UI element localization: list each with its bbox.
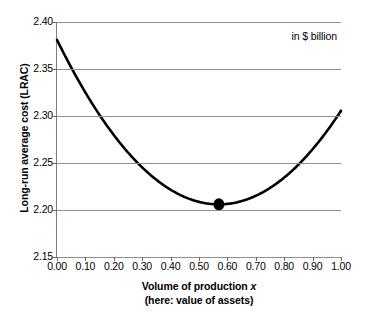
minimum-point-marker: [213, 198, 224, 210]
y-tick-mark: [53, 116, 57, 117]
x-axis-title-variable: x: [250, 280, 256, 292]
x-tick-mark: [142, 257, 143, 261]
y-tick-label: 2.30: [1, 110, 53, 121]
y-tick-mark: [53, 163, 57, 164]
gridline-y: [57, 116, 341, 117]
y-tick-label: 2.25: [1, 157, 53, 168]
x-tick-mark: [57, 257, 58, 261]
gridline-y: [57, 163, 341, 164]
x-tick-mark: [199, 257, 200, 261]
x-tick-mark: [341, 257, 342, 261]
gridline-y: [57, 69, 341, 70]
x-axis-subtitle: (here: value of assets): [57, 293, 341, 307]
lrac-curve-svg: [57, 22, 341, 258]
gridline-y: [57, 22, 341, 23]
plot-area: in $ billion: [57, 22, 341, 257]
x-tick-mark: [227, 257, 228, 261]
gridline-y: [57, 210, 341, 211]
x-tick-mark: [114, 257, 115, 261]
y-tick-label: 2.20: [1, 204, 53, 215]
x-tick-mark: [256, 257, 257, 261]
x-axis-tick-labels: 0.000.100.200.300.400.500.600.700.800.90…: [57, 260, 341, 274]
x-tick-label: 1.00: [321, 260, 361, 272]
x-tick-mark: [313, 257, 314, 261]
x-axis-title-text: Volume of production: [142, 280, 251, 292]
y-tick-label: 2.40: [1, 16, 53, 27]
lrac-chart: Long-run average cost (LRAC) 2.152.202.2…: [0, 0, 371, 321]
y-axis-tick-labels: 2.152.202.252.302.352.40: [0, 0, 53, 321]
x-axis-title: Volume of production x: [57, 279, 341, 293]
y-tick-mark: [53, 22, 57, 23]
y-tick-label: 2.35: [1, 63, 53, 74]
lrac-curve-path: [57, 40, 341, 205]
x-tick-mark: [284, 257, 285, 261]
y-tick-mark: [53, 69, 57, 70]
y-tick-mark: [53, 210, 57, 211]
x-axis-title-block: Volume of production x (here: value of a…: [57, 279, 341, 307]
x-tick-mark: [171, 257, 172, 261]
x-tick-mark: [85, 257, 86, 261]
